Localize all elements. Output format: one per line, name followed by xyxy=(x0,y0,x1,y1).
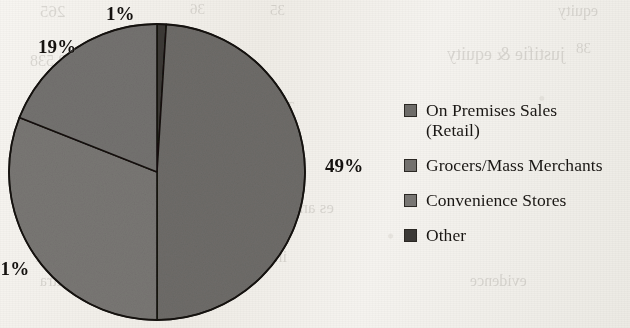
legend-item: Convenience Stores xyxy=(404,190,630,210)
slice-label-convenience: 31% xyxy=(0,258,29,280)
legend-item: On Premises Sales(Retail) xyxy=(404,100,630,140)
legend: On Premises Sales(Retail)Grocers/Mass Me… xyxy=(404,100,630,245)
legend-item: Other xyxy=(404,225,630,245)
pie-slice-on-premises-sales-retail xyxy=(157,24,305,320)
legend-swatch-icon xyxy=(404,104,417,117)
legend-item-label: Convenience Stores xyxy=(426,190,566,210)
slice-label-grocers: 19% xyxy=(38,36,76,58)
slice-label-other: 1% xyxy=(106,3,135,25)
legend-item-label: Other xyxy=(426,225,466,245)
legend-item-label-line1: On Premises Sales xyxy=(426,100,557,120)
slice-label-on-premises: 49% xyxy=(325,155,363,177)
legend-item: Grocers/Mass Merchants xyxy=(404,155,630,175)
legend-swatch-icon xyxy=(404,229,417,242)
legend-item-label: Grocers/Mass Merchants xyxy=(426,155,603,175)
legend-item-label-line1: Convenience Stores xyxy=(426,190,566,210)
legend-swatch-icon xyxy=(404,194,417,207)
legend-swatch-icon xyxy=(404,159,417,172)
legend-item-label: On Premises Sales(Retail) xyxy=(426,100,557,140)
legend-item-label-line1: Other xyxy=(426,225,466,245)
legend-item-label-line2: (Retail) xyxy=(426,120,557,140)
legend-item-label-line1: Grocers/Mass Merchants xyxy=(426,155,603,175)
pie-chart: 1% 19% 31% 49% xyxy=(0,0,400,328)
